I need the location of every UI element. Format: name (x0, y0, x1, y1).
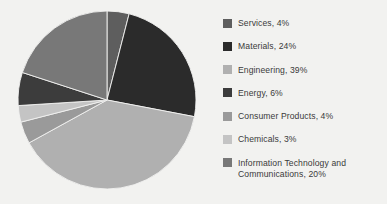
legend-item-label: Consumer Products, 4% (238, 111, 333, 122)
legend-item-engineering[interactable]: Engineering, 39% (223, 65, 387, 76)
legend-swatch-icon (223, 135, 232, 144)
legend-item-label: Materials, 24% (238, 41, 296, 52)
pie-chart-plot-area (0, 0, 210, 204)
legend-item-label: Chemicals, 3% (238, 134, 297, 145)
legend-swatch-icon (223, 65, 232, 74)
legend-swatch-icon (223, 19, 232, 28)
legend-item-label: Services, 4% (238, 18, 289, 29)
chart-legend: Services, 4% Materials, 24% Engineering,… (223, 18, 387, 204)
legend-item-services[interactable]: Services, 4% (223, 18, 387, 29)
pie-slice-group (18, 11, 196, 189)
legend-item-consumer-products[interactable]: Consumer Products, 4% (223, 111, 387, 122)
pie-chart-figure: Services, 4% Materials, 24% Engineering,… (0, 0, 387, 204)
legend-item-energy[interactable]: Energy, 6% (223, 88, 387, 99)
pie-chart-svg (0, 0, 210, 204)
legend-swatch-icon (223, 88, 232, 97)
legend-swatch-icon (223, 42, 232, 51)
legend-item-information-technology-and-communications[interactable]: Information Technology and Communication… (223, 158, 387, 180)
legend-item-label: Energy, 6% (238, 88, 283, 99)
legend-item-materials[interactable]: Materials, 24% (223, 41, 387, 52)
legend-item-chemicals[interactable]: Chemicals, 3% (223, 134, 387, 145)
legend-item-label: Information Technology and Communication… (238, 158, 346, 180)
legend-item-label: Engineering, 39% (238, 65, 307, 76)
legend-swatch-icon (223, 112, 232, 121)
legend-swatch-icon (223, 158, 232, 167)
